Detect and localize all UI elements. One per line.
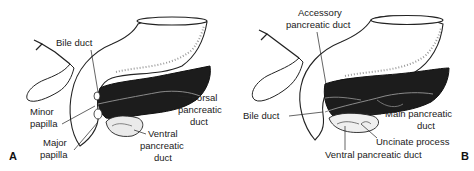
panel-a-illustration: [0, 0, 237, 171]
label-accessory-duct-line2: pancreatic duct: [286, 19, 350, 30]
label-dorsal-duct-line3: duct: [190, 116, 208, 127]
label-ventral-duct-line1: Ventral: [148, 128, 178, 139]
label-minor-papilla-line2: papilla: [30, 118, 57, 129]
label-ventral-duct-b: Ventral pancreatic duct: [325, 149, 422, 160]
label-ventral-duct-line2: pancreatic: [140, 140, 184, 151]
label-main-duct-line2: duct: [417, 120, 435, 131]
label-bile-duct-b: Bile duct: [243, 110, 279, 121]
label-accessory-duct-line1: Accessory: [298, 7, 342, 18]
label-uncinate-process: Uncinate process: [376, 136, 449, 147]
label-minor-papilla-line1: Minor: [30, 106, 54, 117]
pancreatic-duct-anatomy-figure: Bile duct Minor papilla Major papilla Do…: [0, 0, 474, 171]
label-major-papilla-line1: Major: [43, 137, 67, 148]
label-ventral-duct-line3: duct: [154, 152, 172, 163]
panel-letter-a: A: [9, 150, 17, 162]
label-major-papilla-line2: papilla: [40, 149, 67, 160]
label-dorsal-duct-line2: pancreatic: [178, 104, 222, 115]
label-dorsal-duct-line1: Dorsal: [190, 92, 217, 103]
label-main-duct-line1: Main pancreatic: [385, 108, 452, 119]
panel-letter-b: B: [461, 150, 469, 162]
panel-a: Bile duct Minor papilla Major papilla Do…: [0, 0, 237, 171]
panel-b: Accessory pancreatic duct Bile duct Main…: [237, 0, 474, 171]
label-bile-duct: Bile duct: [56, 37, 92, 48]
